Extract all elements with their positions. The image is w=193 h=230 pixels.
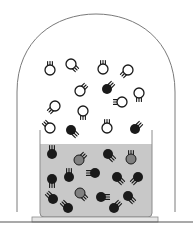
- vapor-molecule: [45, 62, 55, 76]
- vapor-molecule: [42, 120, 55, 133]
- vapor-molecule: [120, 65, 133, 78]
- bell-jar-diagram: [0, 0, 193, 230]
- vapor-molecule: [98, 61, 108, 75]
- vapor-molecule: [78, 106, 88, 120]
- vapor-molecule: [102, 120, 112, 134]
- vapor-molecule: [134, 88, 144, 102]
- vapor-molecule: [75, 83, 88, 96]
- jar-base-plate: [32, 217, 158, 222]
- vapor-molecule: [66, 125, 79, 138]
- vapor-molecule: [102, 81, 115, 94]
- vapor-molecule: [130, 121, 143, 134]
- vapor-molecule: [114, 97, 128, 107]
- vapor-molecule: [66, 59, 79, 72]
- diagram-canvas: [0, 0, 193, 230]
- vapor-molecule: [47, 101, 60, 114]
